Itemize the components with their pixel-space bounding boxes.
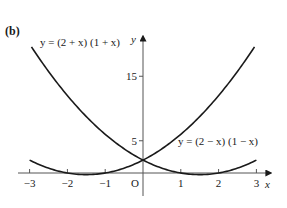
y-axis-label: y (130, 33, 136, 45)
y-ticks: 515 (126, 70, 143, 147)
x-tick-label: −1 (99, 177, 111, 189)
graph-canvas: (b) x y O −3−2−1123 515 y = (2 + x) (1 +… (0, 0, 287, 208)
x-axis-label: x (264, 178, 270, 190)
origin-label: O (131, 177, 139, 189)
part-label: (b) (5, 24, 20, 38)
x-tick-label: 1 (178, 177, 184, 189)
curve-plus-label: y = (2 + x) (1 + x) (40, 36, 120, 49)
x-tick-label: −2 (62, 177, 74, 189)
y-tick-label: 5 (132, 135, 138, 147)
x-tick-label: 3 (254, 177, 260, 189)
curve-minus-label: y = (2 − x) (1 − x) (178, 135, 258, 148)
x-tick-label: −3 (24, 177, 36, 189)
x-tick-label: 2 (216, 177, 222, 189)
curve-plus (30, 47, 255, 175)
y-tick-label: 15 (126, 70, 138, 82)
graph-figure: (b) x y O −3−2−1123 515 y = (2 + x) (1 +… (0, 0, 287, 208)
curve-minus (31, 47, 256, 175)
